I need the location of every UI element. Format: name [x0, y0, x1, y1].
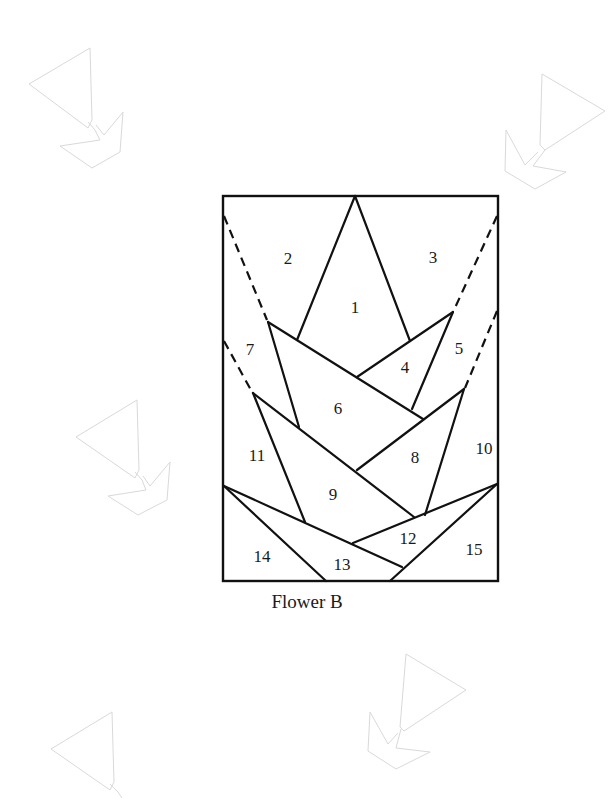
pattern-caption: Flower B: [0, 591, 614, 613]
watermark-flower-icon-bottom-left: [51, 712, 122, 798]
piece-label-5: 5: [455, 339, 464, 358]
piece-label-4: 4: [401, 358, 410, 377]
piece-label-9: 9: [329, 485, 338, 504]
pattern-canvas: 1 2 3 4 5 6 7 8 9 10 11 12 13 14 15: [0, 0, 614, 798]
piece-label-15: 15: [466, 540, 483, 559]
piece-label-3: 3: [429, 248, 438, 267]
piece-label-13: 13: [334, 555, 351, 574]
piece-label-12: 12: [400, 529, 417, 548]
watermark-flower-icon-bottom-right: [368, 654, 466, 769]
piece-label-6: 6: [334, 399, 343, 418]
piece-label-10: 10: [476, 439, 493, 458]
watermark-flower-icon-top-right: [505, 74, 605, 189]
piece-label-11: 11: [249, 446, 265, 465]
piece-label-2: 2: [284, 249, 293, 268]
piece-label-8: 8: [411, 448, 420, 467]
watermark-flower-icon-top-left: [29, 48, 123, 168]
piece-label-7: 7: [246, 340, 255, 359]
piece-label-1: 1: [351, 298, 360, 317]
watermark-flower-icon-middle-left: [76, 400, 170, 515]
piece-label-14: 14: [254, 547, 272, 566]
